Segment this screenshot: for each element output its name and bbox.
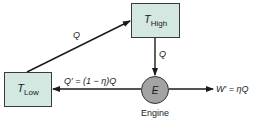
t-low-subscript: Low <box>24 88 39 97</box>
t-high-subscript: High <box>151 19 167 28</box>
t-high-reservoir: THigh <box>131 3 180 38</box>
engine-symbol: E <box>152 85 159 96</box>
engine-circle: E <box>141 76 169 104</box>
arrows-layer <box>0 0 259 132</box>
t-low-reservoir: TLow <box>4 72 52 107</box>
t-low-symbol: T <box>17 82 24 94</box>
engine-caption: Engine <box>141 108 169 118</box>
label-low-to-high: Q <box>73 30 80 40</box>
t-high-label: THigh <box>144 13 167 28</box>
arrow-low-to-high <box>27 21 130 72</box>
t-low-label: TLow <box>17 82 38 97</box>
label-high-to-engine: Q <box>159 49 166 59</box>
t-high-symbol: T <box>144 13 151 25</box>
label-engine-to-low: Q′ = (1 − η)Q <box>64 76 116 86</box>
label-work-output: W′ = ηQ <box>216 84 248 94</box>
